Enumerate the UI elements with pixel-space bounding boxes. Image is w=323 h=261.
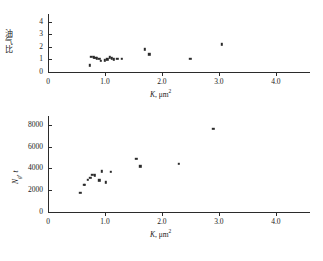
plot-area-top: 01.02.03.04.001234K, μm2 <box>48 14 310 72</box>
x-ticklabel-top-2: 2.0 <box>157 78 166 86</box>
data-point <box>221 43 223 45</box>
y-ticklabel-top-0: 0 <box>39 68 43 76</box>
data-point <box>79 192 81 194</box>
y-tick-bottom-4 <box>48 125 52 126</box>
y-ticklabel-bottom-4: 8000 <box>28 121 43 129</box>
x-axis-line-top <box>48 72 310 73</box>
plot-area-bottom: 01.02.03.04.002000400060008000K, μm2 <box>48 116 310 212</box>
x-tick-top-2 <box>162 73 163 76</box>
data-point <box>113 58 115 60</box>
y-tick-bottom-2 <box>48 168 52 169</box>
y-ticklabel-top-4: 4 <box>39 18 43 26</box>
x-axis-label-bottom: K, μm2 <box>150 227 171 239</box>
data-point <box>87 179 89 181</box>
data-point <box>98 179 100 181</box>
chart-panel-top: 01.02.03.04.001234K, μm2 油气比 <box>0 0 323 104</box>
x-tick-bottom-1 <box>105 213 106 216</box>
y-axis-line-bottom <box>48 116 49 213</box>
x-tick-bottom-4 <box>276 213 277 216</box>
y-tick-bottom-3 <box>48 147 52 148</box>
y-ticklabel-bottom-0: 0 <box>39 208 43 216</box>
data-point <box>116 58 118 60</box>
x-ticklabel-bottom-4: 4.0 <box>271 218 280 226</box>
y-ticklabel-top-1: 1 <box>39 55 43 63</box>
x-ticklabel-top-3: 3.0 <box>214 78 223 86</box>
y-ticklabel-top-3: 3 <box>39 30 43 38</box>
y-tick-bottom-1 <box>48 190 52 191</box>
data-point <box>105 181 107 183</box>
data-point <box>88 64 90 66</box>
data-point <box>106 58 108 60</box>
data-point <box>89 176 91 178</box>
data-point <box>139 165 141 167</box>
data-point <box>212 128 214 130</box>
y-ticklabel-bottom-2: 4000 <box>28 164 43 172</box>
data-point <box>100 170 102 172</box>
x-tick-top-3 <box>219 73 220 76</box>
data-point <box>94 174 96 176</box>
x-ticklabel-bottom-3: 3.0 <box>214 218 223 226</box>
y-tick-top-1 <box>48 59 52 60</box>
data-point <box>109 171 111 173</box>
data-point <box>121 58 123 60</box>
y-ticklabel-bottom-1: 2000 <box>28 186 43 194</box>
x-tick-top-4 <box>276 73 277 76</box>
figure-container: 01.02.03.04.001234K, μm2 油气比 01.02.03.04… <box>0 0 323 261</box>
y-tick-top-3 <box>48 34 52 35</box>
y-tick-top-4 <box>48 22 52 23</box>
data-point <box>189 58 191 60</box>
data-point <box>178 163 180 165</box>
y-axis-line-top <box>48 14 49 73</box>
data-point <box>144 48 146 50</box>
x-axis-line-bottom <box>48 212 310 213</box>
x-tick-top-1 <box>105 73 106 76</box>
x-ticklabel-bottom-1: 1.0 <box>100 218 109 226</box>
x-axis-label-top: K, μm2 <box>150 87 171 99</box>
x-ticklabel-bottom-0: 0 <box>46 218 50 226</box>
x-ticklabel-top-4: 4.0 <box>271 78 280 86</box>
y-tick-top-2 <box>48 47 52 48</box>
chart-panel-bottom: 01.02.03.04.002000400060008000K, μm2 Ng,… <box>0 104 323 261</box>
data-point <box>100 60 102 62</box>
x-ticklabel-top-1: 1.0 <box>100 78 109 86</box>
y-ticklabel-top-2: 2 <box>39 43 43 51</box>
data-point <box>135 157 137 159</box>
x-tick-bottom-3 <box>219 213 220 216</box>
x-ticklabel-top-0: 0 <box>46 78 50 86</box>
x-tick-bottom-2 <box>162 213 163 216</box>
y-axis-label-bottom: Ng, t <box>11 170 24 184</box>
data-point <box>84 183 86 185</box>
data-point <box>148 53 150 55</box>
y-axis-label-top: 油气比 <box>3 29 12 53</box>
x-ticklabel-bottom-2: 2.0 <box>157 218 166 226</box>
y-ticklabel-bottom-3: 6000 <box>28 143 43 151</box>
